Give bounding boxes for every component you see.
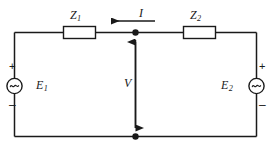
label-impedance-z1: Z1 xyxy=(70,9,81,23)
label-impedance-z2: Z2 xyxy=(190,9,201,23)
label-source-e1: E1 xyxy=(36,79,48,93)
node-bottom-junction xyxy=(132,133,138,139)
circuit-diagram: Z1 Z2 I V E1 E2 + – + – xyxy=(0,0,271,151)
label-source-e1-subscript: 1 xyxy=(43,84,47,93)
impedance-z1-box xyxy=(64,27,96,39)
impedance-z2-box xyxy=(184,27,216,39)
label-impedance-z2-symbol: Z xyxy=(190,8,197,22)
polarity-e1-plus: + xyxy=(9,61,15,72)
label-impedance-z2-subscript: 2 xyxy=(197,14,201,23)
circuit-schematic-canvas xyxy=(0,0,271,151)
label-impedance-z1-subscript: 1 xyxy=(77,14,81,23)
polarity-e2-plus: + xyxy=(259,61,265,72)
label-impedance-z1-symbol: Z xyxy=(70,8,77,22)
polarity-e1-minus: – xyxy=(9,99,16,111)
node-top-junction xyxy=(132,29,138,35)
label-voltage-v: V xyxy=(124,77,131,89)
label-current-i: I xyxy=(139,7,143,19)
label-source-e2: E2 xyxy=(221,79,233,93)
polarity-e2-minus: – xyxy=(259,99,266,111)
label-source-e2-subscript: 2 xyxy=(228,84,232,93)
